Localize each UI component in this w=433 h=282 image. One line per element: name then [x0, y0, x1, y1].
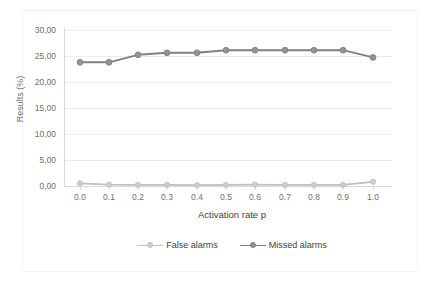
chart-figure: Results (%) 30,00 25,00 20,00 15,00 10,0…	[0, 0, 433, 282]
x-axis-title: Activation rate p	[72, 209, 392, 220]
legend-label-missed-alarms: Missed alarms	[269, 240, 327, 250]
x-tick-label-6: 0.6	[240, 193, 270, 202]
x-tick-label-5: 0.5	[211, 193, 241, 202]
chart-legend: False alarms Missed alarms	[72, 240, 392, 250]
x-tick-label-4: 0.4	[182, 193, 212, 202]
x-tick-label-9: 0.9	[328, 193, 358, 202]
x-tick-label-1: 0.1	[94, 193, 124, 202]
x-tick-label-3: 0.3	[152, 193, 182, 202]
x-tick-label-8: 0.8	[299, 193, 329, 202]
legend-item-missed-alarms[interactable]: Missed alarms	[240, 240, 327, 250]
x-tick-label-10: 1.0	[358, 193, 388, 202]
line-chart: Results (%) 30,00 25,00 20,00 15,00 10,0…	[0, 0, 433, 282]
legend-marker-false-alarms-icon	[137, 241, 163, 250]
x-tick-label-2: 0.2	[123, 193, 153, 202]
x-tick-label-0: 0.0	[65, 193, 95, 202]
legend-marker-missed-alarms-icon	[240, 241, 266, 250]
x-tick-label-7: 0.7	[270, 193, 300, 202]
legend-item-false-alarms[interactable]: False alarms	[137, 240, 218, 250]
legend-label-false-alarms: False alarms	[166, 240, 218, 250]
